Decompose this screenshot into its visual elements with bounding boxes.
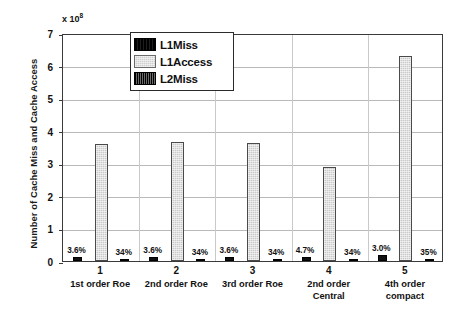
bar-value-label: 34%: [268, 248, 284, 257]
x-tick-label: 4th ordercompact: [385, 278, 425, 302]
group-divider: [368, 35, 369, 261]
x-tick-label-line: 2nd order Roe: [145, 278, 208, 290]
gridline: [63, 100, 442, 101]
x-tick-label: 1st order Roe: [70, 278, 130, 290]
bar-l1access-5: [399, 56, 412, 261]
y-tick-mark: [59, 165, 63, 166]
plot-area: [62, 34, 443, 262]
gridline: [63, 67, 442, 68]
y-tick-label: 7: [0, 29, 53, 40]
legend-swatch-l1access: [134, 55, 156, 68]
y-tick-label: 2: [0, 191, 53, 202]
y-tick-mark: [59, 100, 63, 101]
y-tick-mark: [59, 67, 63, 68]
y-tick-label: 1: [0, 224, 53, 235]
bar-l1miss-2: [149, 257, 158, 261]
y-tick-label: 5: [0, 94, 53, 105]
bar-value-label: 3.6%: [220, 246, 239, 255]
legend-item-l2miss: L2Miss: [134, 70, 229, 87]
y-tick-label: 3: [0, 159, 53, 170]
x-tick-label-line: compact: [385, 290, 425, 302]
x-tick-number: 2: [174, 265, 180, 276]
bar-l1miss-3: [225, 257, 234, 261]
x-tick-label: 3rd order Roe: [222, 278, 283, 290]
y-axis-exponent-base: x 10: [62, 14, 80, 24]
chart-root: Number of Cache Miss and Cache Access x …: [0, 0, 451, 318]
legend-label: L2Miss: [160, 73, 198, 85]
gridline: [63, 132, 442, 133]
chart-legend: L1MissL1AccessL2Miss: [130, 32, 234, 91]
bar-l1access-2: [171, 142, 184, 261]
y-tick-label: 4: [0, 126, 53, 137]
bar-l1miss-1: [73, 257, 82, 261]
bar-l1access-3: [247, 143, 260, 261]
y-tick-mark: [59, 263, 63, 264]
x-tick-number: 3: [250, 265, 256, 276]
legend-item-l1miss: L1Miss: [134, 36, 229, 53]
bar-l2miss-1: [120, 259, 129, 261]
x-tick-label: 2nd order Roe: [145, 278, 208, 290]
group-divider: [292, 35, 293, 261]
bar-l1access-1: [95, 144, 108, 261]
bar-value-label: 35%: [420, 248, 436, 257]
y-tick-mark: [59, 35, 63, 36]
bar-value-label: 34%: [192, 248, 208, 257]
bar-l2miss-4: [349, 259, 358, 261]
y-axis-exponent-power: 8: [80, 12, 84, 19]
bar-l1miss-5: [378, 255, 387, 261]
x-tick-number: 5: [402, 265, 408, 276]
legend-swatch-l2miss: [134, 72, 156, 85]
x-tick-label-line: 2nd order: [307, 278, 350, 290]
bar-value-label: 3.6%: [67, 246, 86, 255]
bar-value-label: 3.6%: [143, 246, 162, 255]
bar-value-label: 34%: [344, 248, 360, 257]
bar-l2miss-2: [196, 259, 205, 261]
y-tick-label: 0: [0, 257, 53, 268]
bar-value-label: 34%: [116, 248, 132, 257]
bar-l2miss-5: [425, 259, 434, 261]
x-tick-label-line: 3rd order Roe: [222, 278, 283, 290]
legend-item-l1access: L1Access: [134, 53, 229, 70]
x-tick-label-line: 4th order: [385, 278, 425, 290]
x-tick-label-line: 1st order Roe: [70, 278, 130, 290]
y-tick-mark: [59, 132, 63, 133]
legend-swatch-l1miss: [134, 38, 156, 51]
x-tick-label: 2nd orderCentral: [307, 278, 350, 302]
y-axis-exponent: x 108: [62, 12, 83, 24]
legend-label: L1Access: [160, 56, 212, 68]
bar-l2miss-3: [273, 259, 282, 261]
y-tick-mark: [59, 230, 63, 231]
y-tick-mark: [59, 197, 63, 198]
bar-value-label: 4.7%: [296, 246, 315, 255]
x-tick-label-line: Central: [307, 290, 350, 302]
bar-l1miss-4: [302, 257, 311, 261]
bar-l1access-4: [323, 167, 336, 261]
x-tick-number: 4: [326, 265, 332, 276]
y-tick-label: 6: [0, 61, 53, 72]
bar-value-label: 3.0%: [372, 244, 391, 253]
legend-label: L1Miss: [160, 39, 198, 51]
x-tick-number: 1: [97, 265, 103, 276]
